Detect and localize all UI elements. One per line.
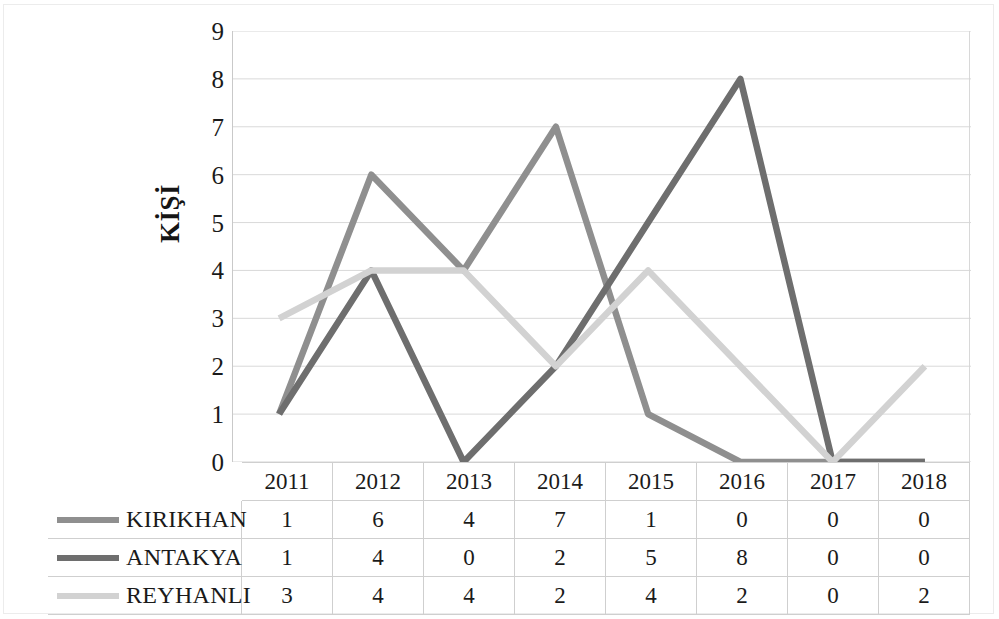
table-corner-cell — [49, 463, 242, 501]
table-cell: 0 — [879, 501, 970, 539]
y-axis-tick-9: 9 — [182, 19, 224, 44]
table-cell: 1 — [242, 501, 333, 539]
table-row: ANTAKYA14025800 — [49, 539, 970, 577]
plot-canvas — [233, 31, 971, 462]
plot-area — [232, 31, 970, 462]
legend-swatch-icon — [57, 517, 119, 523]
table-column-header-2016: 2016 — [697, 463, 788, 501]
table-cell: 2 — [515, 577, 606, 615]
table-cell: 6 — [333, 501, 424, 539]
table-cell: 0 — [424, 539, 515, 577]
table-cell: 4 — [333, 577, 424, 615]
table-cell: 0 — [788, 501, 879, 539]
table-column-header-2012: 2012 — [333, 463, 424, 501]
y-axis-tick-2: 2 — [182, 354, 224, 379]
table-column-header-2014: 2014 — [515, 463, 606, 501]
line-chart: KİŞİ 9876543210 201120122013201420152016… — [0, 0, 999, 619]
table-cell: 3 — [242, 577, 333, 615]
table-cell: 1 — [242, 539, 333, 577]
y-axis-tick-4: 4 — [182, 258, 224, 283]
table-column-header-2013: 2013 — [424, 463, 515, 501]
table-cell: 0 — [697, 501, 788, 539]
table-cell: 4 — [424, 501, 515, 539]
legend-entry-kirikhan: KIRIKHAN — [49, 501, 242, 539]
table-cell: 4 — [606, 577, 697, 615]
table-column-header-2017: 2017 — [788, 463, 879, 501]
y-axis-title: KİŞİ — [155, 164, 186, 264]
table-cell: 1 — [606, 501, 697, 539]
legend-swatch-icon — [57, 593, 119, 599]
table-row: REYHANLI34424202 — [49, 577, 970, 615]
table-body: KIRIKHAN16471000ANTAKYA14025800REYHANLI3… — [49, 501, 970, 615]
y-axis-tick-7: 7 — [182, 114, 224, 139]
y-axis-tick-3: 3 — [182, 306, 224, 331]
table-cell: 4 — [424, 577, 515, 615]
table-cell: 2 — [697, 577, 788, 615]
table-cell: 8 — [697, 539, 788, 577]
table-column-header-2011: 2011 — [242, 463, 333, 501]
table-cell: 4 — [333, 539, 424, 577]
table-row: KIRIKHAN16471000 — [49, 501, 970, 539]
table-cell: 7 — [515, 501, 606, 539]
table-header-row: 20112012201320142015201620172018 — [49, 463, 970, 501]
y-axis-tick-6: 6 — [182, 162, 224, 187]
legend-entry-reyhanli: REYHANLI — [49, 577, 242, 615]
table-cell: 2 — [515, 539, 606, 577]
chart-data-table: 20112012201320142015201620172018 KIRIKHA… — [48, 462, 970, 615]
table-column-header-2018: 2018 — [879, 463, 970, 501]
legend-swatch-icon — [57, 555, 119, 561]
legend-label: KIRIKHAN — [126, 506, 247, 533]
table-cell: 5 — [606, 539, 697, 577]
y-axis-tick-5: 5 — [182, 210, 224, 235]
table-cell: 0 — [788, 539, 879, 577]
legend-label: ANTAKYA — [126, 544, 242, 571]
table-column-header-2015: 2015 — [606, 463, 697, 501]
table-cell: 0 — [788, 577, 879, 615]
legend-label: REYHANLI — [126, 582, 251, 609]
y-axis-tick-labels: 9876543210 — [182, 31, 224, 462]
table-cell: 0 — [879, 539, 970, 577]
legend-entry-antakya: ANTAKYA — [49, 539, 242, 577]
y-axis-tick-8: 8 — [182, 66, 224, 91]
y-axis-tick-1: 1 — [182, 402, 224, 427]
table-cell: 2 — [879, 577, 970, 615]
